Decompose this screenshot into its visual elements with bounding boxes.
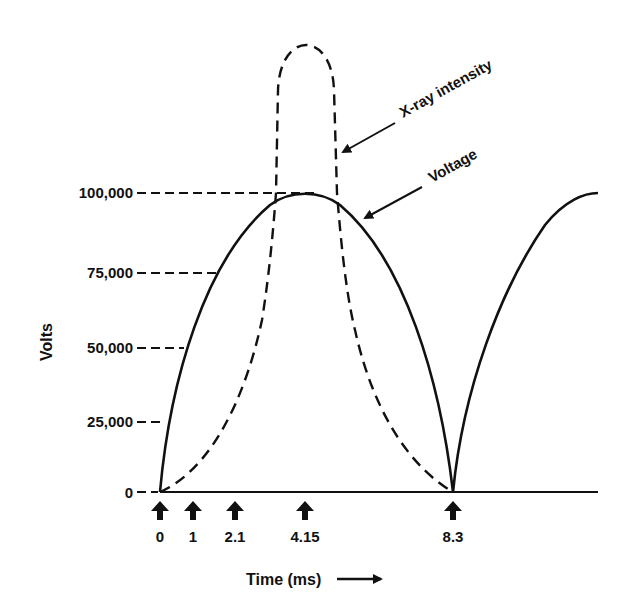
x-marker-8-3: 8.3 bbox=[443, 528, 464, 545]
arrow-up-icon bbox=[296, 501, 314, 520]
y-tick-0: 0 bbox=[125, 484, 133, 501]
arrow-up-icon bbox=[226, 501, 244, 520]
arrow-up-icon bbox=[444, 501, 462, 520]
y-tick-25000: 25,000 bbox=[87, 413, 133, 430]
y-tick-75000: 75,000 bbox=[87, 264, 133, 281]
x-marker-1: 1 bbox=[189, 528, 197, 545]
chart-canvas: Volts 100,000 75,000 50,000 25,000 0 X-r… bbox=[0, 0, 625, 613]
xray-pointer-arrow bbox=[343, 123, 395, 152]
annotation-voltage: Voltage bbox=[425, 145, 480, 186]
arrow-up-icon bbox=[151, 501, 169, 520]
x-marker-0: 0 bbox=[156, 528, 164, 545]
annotation-xray-intensity: X-ray intensity bbox=[396, 55, 495, 120]
x-marker-4-15: 4.15 bbox=[290, 528, 319, 545]
arrow-up-icon bbox=[184, 501, 202, 520]
voltage-curve bbox=[160, 193, 598, 492]
x-marker-2-1: 2.1 bbox=[225, 528, 246, 545]
time-marker-arrows bbox=[151, 501, 462, 520]
y-tick-100000: 100,000 bbox=[79, 184, 133, 201]
y-axis-title: Volts bbox=[38, 323, 55, 361]
voltage-pointer-arrow bbox=[365, 187, 422, 218]
y-tick-50000: 50,000 bbox=[87, 339, 133, 356]
x-axis-title: Time (ms) bbox=[246, 571, 321, 588]
